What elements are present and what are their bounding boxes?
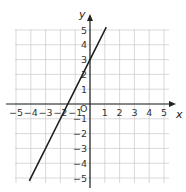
x-tick-label: 2: [117, 107, 123, 118]
x-tick-label: −3: [39, 107, 53, 118]
axes: [6, 14, 176, 188]
y-tick-label: −1: [73, 113, 87, 124]
x-axis-label: x: [175, 108, 183, 121]
x-tick-label: 1: [102, 107, 108, 118]
y-tick-label: −3: [73, 143, 87, 154]
y-tick-label: 5: [81, 25, 87, 36]
y-tick-label: −2: [73, 128, 87, 139]
y-tick-label: −5: [73, 173, 87, 184]
x-tick-label: 3: [131, 107, 137, 118]
x-tick-label: −5: [9, 107, 23, 118]
y-axis-label: y: [78, 8, 86, 21]
x-tick-label: 5: [161, 107, 167, 118]
y-tick-label: 3: [81, 54, 87, 65]
chart: −5−4−3−2−11234554321−1−2−3−4−5 x y O: [0, 0, 186, 192]
origin-label: O: [80, 103, 87, 114]
x-tick-label: 4: [146, 107, 152, 118]
x-axis-arrow-icon: [169, 101, 176, 107]
grid: [15, 29, 169, 183]
y-axis-arrow-icon: [87, 14, 93, 21]
x-tick-label: −4: [24, 107, 38, 118]
y-tick-label: 1: [81, 84, 87, 95]
y-tick-label: 4: [81, 39, 87, 50]
y-tick-label: −4: [73, 158, 87, 169]
